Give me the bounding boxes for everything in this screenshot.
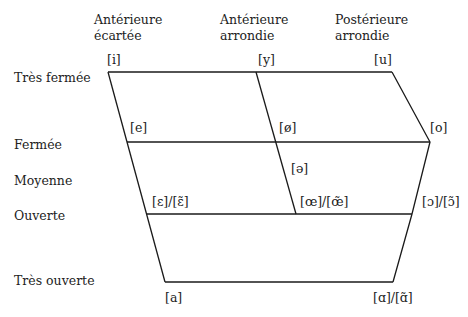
line-central <box>256 72 296 214</box>
vowel-i: [i] <box>107 52 121 67</box>
vowel-u: [u] <box>374 52 392 67</box>
vowel-oe: [œ]/[œ̃] <box>300 194 348 209</box>
column-header-line: Antérieure <box>220 12 288 28</box>
vowel-a: [a] <box>165 290 182 305</box>
vowel-trapezoid <box>0 0 468 317</box>
column-header-line: Antérieure <box>94 12 162 28</box>
vowel-o: [o] <box>430 120 447 135</box>
column-header-posterieure-arrondie: Postérieure arrondie <box>335 12 408 44</box>
column-header-line: Postérieure <box>335 12 408 28</box>
vowel-alpha: [ɑ]/[ɑ̃] <box>373 290 413 305</box>
vowel-e: [e] <box>130 120 147 135</box>
column-header-line: arrondie <box>220 28 288 44</box>
column-header-line: arrondie <box>335 28 408 44</box>
vowel-o-slash: [ø] <box>279 120 296 135</box>
row-label-ouverte: Ouverte <box>14 208 65 223</box>
vowel-open-o: [ɔ]/[ɔ̃] <box>422 194 460 209</box>
row-label-moyenne: Moyenne <box>14 173 72 188</box>
column-header-anterieure-ecartee: Antérieure écartée <box>94 12 162 44</box>
vowel-epsilon: [ɛ]/[ɛ̃] <box>152 194 189 209</box>
column-header-anterieure-arrondie: Antérieure arrondie <box>220 12 288 44</box>
row-label-fermee: Fermée <box>14 137 62 152</box>
row-label-tres-ouverte: Très ouverte <box>14 273 95 288</box>
vowel-y: [y] <box>258 52 275 67</box>
vowel-schwa: [ə] <box>291 161 308 176</box>
edge-left <box>108 72 165 282</box>
row-label-tres-fermee: Très fermée <box>14 70 91 85</box>
column-header-line: écartée <box>94 28 162 44</box>
edge-right <box>392 72 430 282</box>
